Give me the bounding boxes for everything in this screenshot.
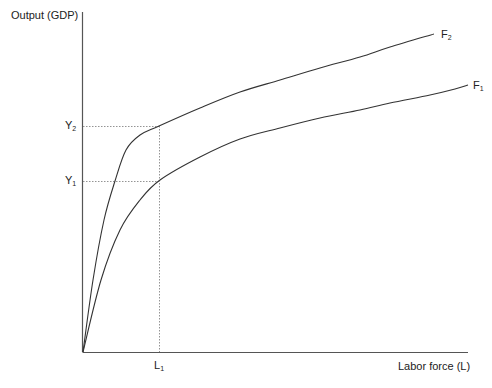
curve-f2: [83, 34, 434, 352]
y2-tick-label: Y2: [65, 120, 76, 132]
production-curves: [83, 34, 468, 352]
curve-f1: [83, 85, 468, 352]
x-axis-label: Labor force (L): [398, 361, 470, 372]
y1-tick-label: Y1: [65, 175, 76, 187]
l1-tick-label: L1: [154, 360, 164, 372]
production-function-diagram: [0, 0, 492, 388]
y-axis-label: Output (GDP): [11, 10, 78, 21]
f2-curve-label: F2: [441, 29, 452, 41]
f1-curve-label: F1: [473, 80, 484, 92]
